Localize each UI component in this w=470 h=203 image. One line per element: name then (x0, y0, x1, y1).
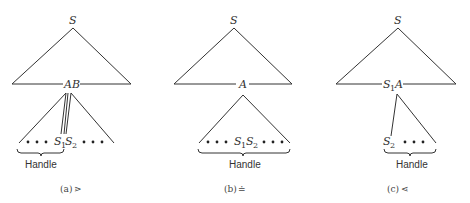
ellipsis-dot (413, 141, 416, 144)
ellipsis-dot (404, 141, 407, 144)
tree-edge (234, 28, 292, 84)
subtree-edge (66, 93, 71, 134)
tree-edge (73, 28, 131, 84)
tree-edge (398, 28, 456, 84)
root-label: S (69, 14, 77, 27)
ellipsis-dot (92, 141, 95, 144)
ellipsis-dot (207, 141, 210, 144)
handle-label: Handle (25, 159, 57, 170)
ellipsis-dot (36, 141, 39, 144)
panel-b: S A S 1 S 2 Handle (b) ≐ (174, 14, 292, 194)
leaf-s2-subscript: 2 (72, 141, 77, 150)
node-label: AB (63, 78, 80, 91)
caption-relation: ⋖ (401, 184, 409, 194)
panel-c: S S 1 A S 2 Handle (c) ⋖ (336, 14, 456, 194)
ellipsis-dot (281, 141, 284, 144)
ellipsis-dot (272, 141, 275, 144)
node-label: A (238, 78, 247, 91)
handle-label: Handle (396, 159, 428, 170)
leaf-s2-subscript: 2 (390, 141, 395, 150)
subtree-edge (71, 93, 114, 143)
caption-letter: (a) (60, 184, 72, 194)
ellipsis-dot (83, 141, 86, 144)
tree-edge (12, 28, 73, 84)
subtree-edge (61, 93, 66, 134)
caption-letter: (c) (387, 184, 399, 194)
root-label: S (230, 14, 238, 27)
precedence-relations-diagram: S AB S 1 S 2 Handle (a) ⋗ S A (0, 0, 470, 203)
ellipsis-dot (216, 141, 219, 144)
panel-a: S AB S 1 S 2 Handle (a) ⋗ (12, 14, 131, 194)
tree-edge (174, 28, 234, 84)
handle-brace (17, 149, 64, 156)
subtree-edge (391, 94, 397, 136)
ellipsis-dot (45, 141, 48, 144)
handle-label: Handle (229, 159, 261, 170)
ellipsis-dot (27, 141, 30, 144)
caption-letter: (b) (224, 184, 237, 194)
tree-edge (336, 28, 398, 84)
root-label: S (394, 14, 402, 27)
handle-brace (384, 149, 436, 156)
ellipsis-dot (422, 141, 425, 144)
node-label-a: A (394, 78, 403, 91)
subtree-edge (397, 94, 436, 143)
ellipsis-dot (101, 141, 104, 144)
caption-relation: ≐ (238, 184, 246, 194)
subtree-edge (64, 93, 68, 134)
caption-relation: ⋗ (74, 184, 82, 194)
leaf-s2-subscript: 2 (253, 141, 258, 150)
ellipsis-dot (263, 141, 266, 144)
ellipsis-dot (225, 141, 228, 144)
handle-brace (198, 149, 290, 156)
